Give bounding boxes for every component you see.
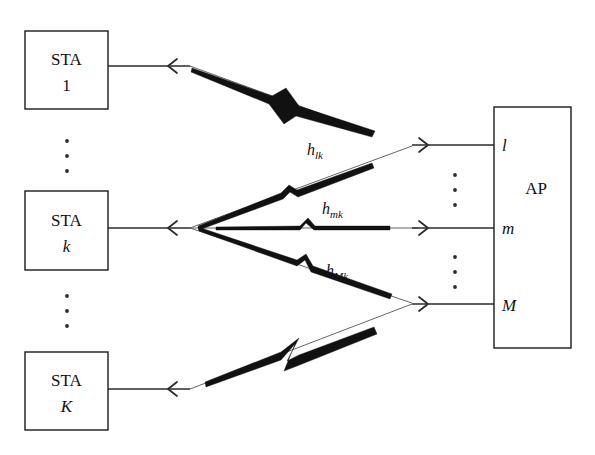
antenna-M-wire: [412, 297, 494, 311]
station-box-k[interactable]: [25, 191, 108, 270]
channel-Mk-subscript: Mk: [333, 270, 349, 282]
station-node-K[interactable]: STA K: [25, 352, 108, 430]
access-point-label: AP: [525, 179, 547, 198]
ellipsis-antennas-lower: [453, 255, 457, 289]
channel-mk-subscript: mk: [330, 208, 344, 220]
antenna-label-m: m: [502, 219, 514, 238]
antenna-label-l: l: [502, 136, 507, 155]
channel-lk-subscript: lk: [315, 149, 324, 161]
channel-label-lk: hlk: [307, 141, 324, 161]
ellipsis-stations-lower: [65, 294, 69, 328]
lightning-bolt-staK-to-antenna-M: [205, 327, 377, 387]
channel-lk-base: h: [307, 141, 315, 158]
channel-label-Mk: hMk: [326, 262, 349, 282]
station-1-index: 1: [62, 76, 71, 95]
station-K-index: K: [60, 397, 74, 416]
access-point-node[interactable]: AP l m M: [494, 107, 571, 348]
lightning-bolt-stak-to-antenna-M: [198, 227, 392, 299]
station-box-1[interactable]: [25, 31, 108, 109]
lightning-bolt-sta1-to-antenna-l: [191, 68, 375, 137]
channel-label-mk: hmk: [322, 200, 344, 220]
station-node-k[interactable]: STA k: [25, 191, 108, 270]
lightning-bolt-stak-to-antenna-l: [198, 163, 374, 230]
station-box-K[interactable]: [25, 352, 108, 430]
channel-mk-base: h: [322, 200, 330, 217]
station-node-1[interactable]: STA 1: [25, 31, 108, 109]
channel-Mk-base: h: [326, 262, 334, 279]
ellipsis-stations-upper: [65, 139, 69, 173]
station-1-name: STA: [51, 50, 82, 69]
station-K-wire: [108, 304, 412, 396]
wireless-uplink-diagram: STA 1 STA k STA K AP l m: [0, 0, 595, 455]
station-k-name: STA: [51, 211, 82, 230]
diagram-canvas: STA 1 STA k STA K AP l m: [0, 0, 595, 455]
ellipsis-antennas-upper: [453, 173, 457, 207]
antenna-l-wire: [412, 138, 494, 152]
station-k-wire: [108, 146, 418, 303]
antenna-label-M: M: [501, 296, 517, 315]
station-K-name: STA: [51, 371, 82, 390]
station-k-index: k: [63, 237, 71, 256]
antenna-m-wire: [412, 221, 494, 235]
